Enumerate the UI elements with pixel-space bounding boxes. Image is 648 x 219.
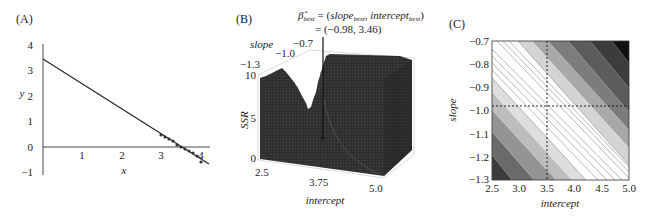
svg-text:0: 0 — [251, 152, 257, 164]
best-fit-annotation: β̂best = (slopebest, interceptbest) = (−… — [297, 9, 424, 36]
svg-text:2.5: 2.5 — [255, 166, 269, 178]
svg-text:5.0: 5.0 — [622, 182, 636, 194]
svg-text:−0.8: −0.8 — [469, 58, 489, 70]
svg-text:4.5: 4.5 — [595, 182, 609, 194]
slope-axis-label: slope — [250, 38, 273, 50]
c-y-axis-label: slope — [446, 98, 458, 121]
panel-b-label: (B) — [236, 12, 252, 26]
panel-a-label: (A) — [16, 12, 33, 26]
svg-text:−1.2: −1.2 — [469, 151, 489, 163]
svg-text:0: 0 — [28, 141, 34, 153]
svg-text:3.75: 3.75 — [309, 176, 329, 188]
svg-text:β̂best = (slopebest, intercept: β̂best = (slopebest, interceptbest) — [297, 9, 424, 23]
svg-text:3: 3 — [158, 149, 164, 161]
y-axis-label: y — [19, 87, 25, 99]
svg-text:−1.1: −1.1 — [469, 128, 489, 140]
svg-text:3: 3 — [28, 64, 34, 76]
svg-text:−1.0: −1.0 — [469, 104, 489, 116]
svg-text:2.5: 2.5 — [485, 182, 499, 194]
x-axis-label: x — [121, 164, 127, 176]
intercept-axis-label-b: intercept — [306, 194, 346, 206]
data-points — [159, 133, 202, 163]
svg-text:4.0: 4.0 — [567, 182, 581, 194]
svg-text:3.0: 3.0 — [512, 182, 526, 194]
ssr-axis-label: SSR — [238, 111, 250, 129]
panel-c-label: (C) — [449, 17, 465, 31]
svg-text:1: 1 — [28, 115, 34, 127]
svg-text:5.0: 5.0 — [369, 182, 383, 194]
svg-text:1: 1 — [79, 149, 85, 161]
contour-plot — [492, 41, 629, 180]
svg-text:−1: −1 — [21, 166, 33, 178]
svg-text:10: 10 — [245, 69, 257, 81]
svg-text:−0.7: −0.7 — [293, 37, 313, 49]
c-y-tick-labels: −0.7 −0.8 −0.9 −1.0 −1.1 −1.2 −1.3 — [469, 35, 489, 185]
x-tick-labels: 1 2 3 4 — [79, 149, 204, 161]
svg-text:−0.9: −0.9 — [469, 81, 489, 93]
svg-text:3.5: 3.5 — [540, 182, 554, 194]
c-x-tick-labels: 2.5 3.0 3.5 4.0 4.5 5.0 — [485, 182, 636, 194]
c-x-axis-label: intercept — [541, 197, 581, 209]
y-tick-labels: 4 3 2 1 0 −1 — [21, 39, 33, 178]
svg-text:= (−0.98, 3.46): = (−0.98, 3.46) — [315, 23, 382, 36]
figure-canvas: (A) 4 3 2 1 0 −1 1 2 3 4 x y — [0, 0, 648, 219]
panel-c: (C) — [446, 17, 636, 209]
panel-a: (A) 4 3 2 1 0 −1 1 2 3 4 x y — [16, 12, 210, 178]
svg-text:2: 2 — [28, 90, 34, 102]
svg-text:5: 5 — [251, 112, 257, 124]
svg-text:−1.0: −1.0 — [275, 47, 295, 59]
svg-text:4: 4 — [28, 39, 34, 51]
svg-text:2: 2 — [119, 149, 125, 161]
svg-text:−0.7: −0.7 — [469, 35, 489, 47]
panel-b: (B) β̂best = (slopebest, interceptbest) … — [236, 9, 424, 206]
